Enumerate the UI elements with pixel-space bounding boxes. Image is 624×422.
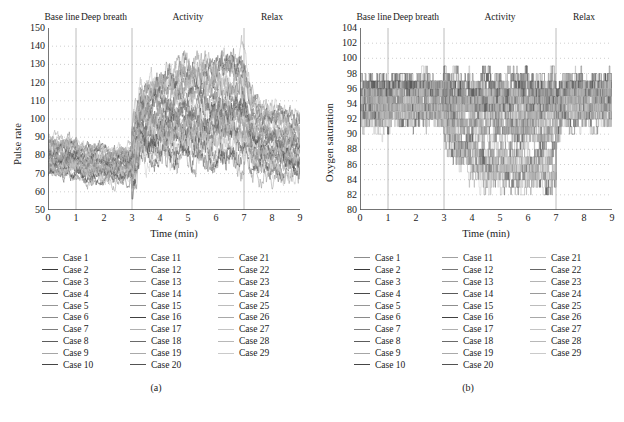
legend-item-case-11[interactable]: Case 11	[442, 252, 528, 264]
legend-item-case-23[interactable]: Case 23	[530, 276, 616, 288]
legend-item-case-12[interactable]: Case 12	[442, 264, 528, 276]
legend-item-case-11[interactable]: Case 11	[130, 252, 216, 264]
subcaption-a: (a)	[0, 382, 312, 393]
legend-item-case-5[interactable]: Case 5	[42, 300, 128, 312]
legend-item-case-4[interactable]: Case 4	[42, 288, 128, 300]
legend-item-case-21[interactable]: Case 21	[530, 252, 616, 264]
legend-line-swatch-icon	[442, 257, 458, 258]
legend-item-case-26[interactable]: Case 26	[218, 311, 304, 323]
legend-item-case-27[interactable]: Case 27	[218, 323, 304, 335]
legend-item-case-29[interactable]: Case 29	[218, 347, 304, 359]
legend-item-case-19[interactable]: Case 19	[442, 347, 528, 359]
legend-item-case-26[interactable]: Case 26	[530, 311, 616, 323]
legend-item-case-20[interactable]: Case 20	[130, 359, 216, 371]
legend-line-swatch-icon	[354, 317, 370, 318]
legend-item-case-6[interactable]: Case 6	[42, 311, 128, 323]
legend-item-case-8[interactable]: Case 8	[42, 335, 128, 347]
legend-item-case-17[interactable]: Case 17	[130, 323, 216, 335]
legend-item-label: Case 2	[63, 265, 89, 275]
legend-item-label: Case 29	[551, 348, 581, 358]
legend-item-case-18[interactable]: Case 18	[442, 335, 528, 347]
phase-labels-a: Base lineDeep breathActivityRelax	[48, 12, 300, 26]
legend-item-case-10[interactable]: Case 10	[354, 359, 440, 371]
legend-line-swatch-icon	[218, 341, 234, 342]
legend-item-case-7[interactable]: Case 7	[354, 323, 440, 335]
legend-item-label: Case 16	[151, 312, 181, 322]
legend-item-label: Case 13	[463, 277, 493, 287]
legend-item-case-9[interactable]: Case 9	[42, 347, 128, 359]
legend-line-swatch-icon	[442, 341, 458, 342]
legend-item-case-16[interactable]: Case 16	[442, 311, 528, 323]
legend-item-case-5[interactable]: Case 5	[354, 300, 440, 312]
legend-item-case-2[interactable]: Case 2	[354, 264, 440, 276]
x-tick-label: 4	[158, 213, 163, 223]
legend-line-swatch-icon	[354, 364, 370, 365]
legend-item-label: Case 7	[63, 324, 89, 334]
legend-item-case-25[interactable]: Case 25	[530, 300, 616, 312]
legend-line-swatch-icon	[42, 257, 58, 258]
legend-item-case-3[interactable]: Case 3	[42, 276, 128, 288]
legend-item-label: Case 10	[375, 360, 405, 370]
legend-item-case-1[interactable]: Case 1	[42, 252, 128, 264]
phase-label-base-line: Base line	[356, 12, 391, 22]
legend-item-case-19[interactable]: Case 19	[130, 347, 216, 359]
legend-item-label: Case 17	[151, 324, 181, 334]
y-tick-label: 100	[5, 114, 45, 124]
legend-item-case-21[interactable]: Case 21	[218, 252, 304, 264]
legend-line-swatch-icon	[130, 269, 146, 270]
y-tick-label: 98	[317, 69, 357, 79]
phase-label-relax: Relax	[261, 12, 283, 22]
legend-item-case-8[interactable]: Case 8	[354, 335, 440, 347]
legend-item-case-13[interactable]: Case 13	[442, 276, 528, 288]
legend-item-case-29[interactable]: Case 29	[530, 347, 616, 359]
legend-item-case-15[interactable]: Case 15	[442, 300, 528, 312]
legend-item-label: Case 13	[151, 277, 181, 287]
legend-item-label: Case 29	[239, 348, 269, 358]
legend-line-swatch-icon	[218, 269, 234, 270]
legend-item-label: Case 18	[151, 336, 181, 346]
legend-item-case-28[interactable]: Case 28	[218, 335, 304, 347]
y-tick-label: 80	[317, 205, 357, 215]
legend-item-label: Case 15	[151, 301, 181, 311]
legend-item-case-22[interactable]: Case 22	[530, 264, 616, 276]
legend-item-case-23[interactable]: Case 23	[218, 276, 304, 288]
legend-item-case-14[interactable]: Case 14	[442, 288, 528, 300]
legend-line-swatch-icon	[442, 281, 458, 282]
legend-item-case-4[interactable]: Case 4	[354, 288, 440, 300]
legend-item-case-20[interactable]: Case 20	[442, 359, 528, 371]
y-tick-label: 60	[5, 187, 45, 197]
legend-item-label: Case 5	[375, 301, 401, 311]
legend-item-case-17[interactable]: Case 17	[442, 323, 528, 335]
legend-item-label: Case 5	[63, 301, 89, 311]
legend-item-case-10[interactable]: Case 10	[42, 359, 128, 371]
legend-item-case-14[interactable]: Case 14	[130, 288, 216, 300]
legend-item-case-9[interactable]: Case 9	[354, 347, 440, 359]
legend-item-case-1[interactable]: Case 1	[354, 252, 440, 264]
legend-item-case-15[interactable]: Case 15	[130, 300, 216, 312]
legend-line-swatch-icon	[442, 329, 458, 330]
legend-item-case-3[interactable]: Case 3	[354, 276, 440, 288]
legend-item-case-7[interactable]: Case 7	[42, 323, 128, 335]
legend-item-case-12[interactable]: Case 12	[130, 264, 216, 276]
legend-line-swatch-icon	[42, 364, 58, 365]
legend-item-case-6[interactable]: Case 6	[354, 311, 440, 323]
x-tick-label: 7	[554, 213, 559, 223]
legend-item-label: Case 9	[63, 348, 89, 358]
legend-item-label: Case 11	[151, 253, 181, 263]
legend-item-case-24[interactable]: Case 24	[530, 288, 616, 300]
legend-item-case-25[interactable]: Case 25	[218, 300, 304, 312]
phase-label-deep-breath: Deep breath	[393, 12, 439, 22]
legend-item-label: Case 26	[239, 312, 269, 322]
legend-item-case-16[interactable]: Case 16	[130, 311, 216, 323]
legend-item-case-18[interactable]: Case 18	[130, 335, 216, 347]
legend-item-case-13[interactable]: Case 13	[130, 276, 216, 288]
legend-item-label: Case 4	[375, 289, 401, 299]
legend-item-label: Case 27	[551, 324, 581, 334]
x-tick-label: 3	[130, 213, 135, 223]
legend-item-case-24[interactable]: Case 24	[218, 288, 304, 300]
legend-item-case-28[interactable]: Case 28	[530, 335, 616, 347]
legend-item-case-2[interactable]: Case 2	[42, 264, 128, 276]
legend-line-swatch-icon	[218, 257, 234, 258]
legend-item-case-22[interactable]: Case 22	[218, 264, 304, 276]
legend-item-case-27[interactable]: Case 27	[530, 323, 616, 335]
